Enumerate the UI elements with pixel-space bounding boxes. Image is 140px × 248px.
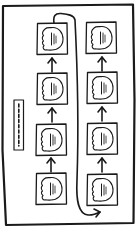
right-node-3[interactable] [87,123,118,155]
arrow-up-icon [48,108,56,122]
left-node-1[interactable] [37,23,68,55]
left-column [36,23,68,205]
arrow-up-icon [48,58,56,72]
arrow-up-icon [47,158,55,172]
arrow-up-icon [98,158,106,172]
left-node-2[interactable] [37,73,68,105]
right-node-4[interactable] [87,174,118,206]
side-panel [14,100,24,150]
left-node-4[interactable] [36,173,67,205]
arrow-up-icon [98,57,106,71]
right-node-2[interactable] [87,72,118,104]
right-node-1[interactable] [86,22,117,54]
left-node-3[interactable] [36,124,67,156]
outer-frame [3,5,135,226]
arrow-up-icon [98,107,106,121]
diagram-canvas [0,0,140,248]
right-column [86,22,118,206]
